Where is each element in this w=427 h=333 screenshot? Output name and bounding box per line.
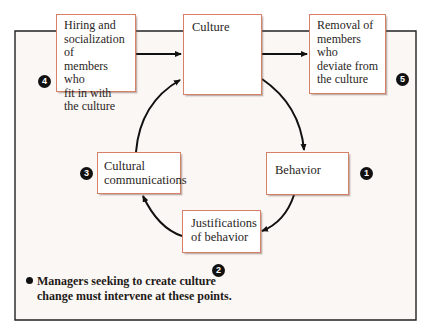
intervention-point-3-badge: 3	[80, 167, 93, 180]
hiring-socialization-box: Hiring and socialization of members who …	[56, 14, 136, 92]
intervention-point-5-badge: 5	[396, 73, 409, 86]
note-line-1: Managers seeking to create culture	[37, 274, 216, 288]
cultural-communications-box: Cultural communications	[97, 152, 181, 194]
note-line-2: change must intervene at these points.	[26, 289, 232, 304]
removal-box: Removal of members who deviate from the …	[309, 14, 386, 94]
intervention-point-4-badge: 4	[38, 75, 51, 88]
bullet-icon	[26, 277, 33, 284]
justifications-box: Justifications of behavior	[182, 210, 261, 253]
intervention-note: Managers seeking to create culture chang…	[26, 274, 232, 304]
behavior-box: Behavior	[266, 152, 349, 195]
intervention-point-1-badge: 1	[360, 167, 373, 180]
culture-box: Culture	[183, 14, 262, 95]
